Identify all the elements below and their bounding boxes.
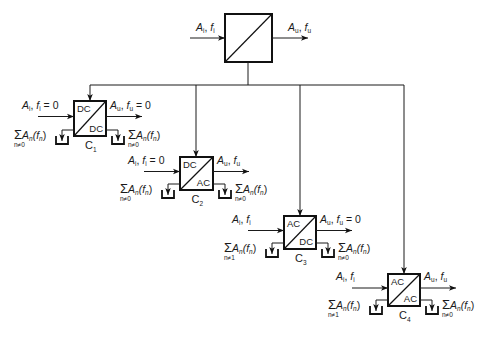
svg-text:ΣAn(fn): ΣAn(fn) <box>328 297 360 312</box>
signal-label: Ai, fi <box>231 213 251 226</box>
converter-c1: DCDCAi, fi = 0Au, fu = 0ΣAn(fn)n≠0ΣAn(fn… <box>14 85 160 153</box>
svg-text:ΣAn(fn): ΣAn(fn) <box>235 181 267 196</box>
main-converter: Ai, fi Au, fu <box>90 14 404 85</box>
signal-label: Ai, fi = 0 <box>21 99 59 112</box>
converter-id-label: C4 <box>399 309 411 323</box>
svg-text:n≠0: n≠0 <box>235 195 246 202</box>
box-bottom-label: DC <box>299 236 313 247</box>
signal-label: Au, fu = 0 <box>319 213 361 226</box>
left-harmonic-sum: ΣAn(fn)n≠1 <box>328 297 360 318</box>
signal-label: Au, fu = 0 <box>109 99 151 112</box>
main-input-label: Ai, fi <box>195 21 215 34</box>
signal-label: Au, fu <box>423 270 447 283</box>
right-harmonic-sum: ΣAn(fn)n≠0 <box>442 297 474 318</box>
left-harmonic-sum: ΣAn(fn)n≠0 <box>14 127 46 148</box>
svg-text:n≠1: n≠1 <box>328 311 339 318</box>
svg-text:ΣAn(fn): ΣAn(fn) <box>338 240 370 255</box>
svg-text:n≠0: n≠0 <box>14 141 25 148</box>
box-bottom-label: AC <box>197 177 210 188</box>
svg-text:n≠0: n≠0 <box>128 141 139 148</box>
converter-diagram: Ai, fi Au, fu DCDCAi, fi = 0Au, fu = 0ΣA… <box>0 0 492 337</box>
svg-text:ΣAn(fn): ΣAn(fn) <box>120 181 152 196</box>
box-top-label: DC <box>183 159 197 170</box>
main-output-label: Au, fu <box>287 21 311 34</box>
converter-id-label: C2 <box>192 193 204 207</box>
converter-id-label: C3 <box>295 252 307 266</box>
converter-group: DCDCAi, fi = 0Au, fu = 0ΣAn(fn)n≠0ΣAn(fn… <box>14 85 474 323</box>
converter-id-label: C1 <box>85 139 97 153</box>
left-harmonic-sum: ΣAn(fn)n≠0 <box>120 181 152 202</box>
signal-label: Au, fu <box>216 154 240 167</box>
box-top-label: AC <box>287 218 300 229</box>
right-harmonic-sum: ΣAn(fn)n≠0 <box>235 181 267 202</box>
svg-text:ΣAn(fn): ΣAn(fn) <box>442 297 474 312</box>
box-top-label: AC <box>391 276 404 287</box>
converter-c3: ACDCAi, fiAu, fu = 0ΣAn(fn)n≠1ΣAn(fn)n≠0… <box>224 85 370 266</box>
right-harmonic-sum: ΣAn(fn)n≠0 <box>338 240 370 261</box>
signal-label: Ai, fi = 0 <box>127 154 165 167</box>
svg-text:n≠0: n≠0 <box>120 195 131 202</box>
box-top-label: DC <box>77 103 91 114</box>
svg-text:n≠0: n≠0 <box>442 311 453 318</box>
svg-text:n≠0: n≠0 <box>338 254 349 261</box>
box-bottom-label: DC <box>89 123 103 134</box>
left-harmonic-sum: ΣAn(fn)n≠1 <box>224 240 256 261</box>
right-harmonic-sum: ΣAn(fn)n≠0 <box>128 127 160 148</box>
svg-text:n≠1: n≠1 <box>224 254 235 261</box>
signal-label: Ai, fi <box>335 270 355 283</box>
svg-text:ΣAn(fn): ΣAn(fn) <box>14 127 46 142</box>
box-bottom-label: AC <box>404 293 417 304</box>
svg-text:ΣAn(fn): ΣAn(fn) <box>224 240 256 255</box>
converter-c4: ACACAi, fiAu, fuΣAn(fn)n≠1ΣAn(fn)n≠0C4 <box>328 85 474 323</box>
svg-text:ΣAn(fn): ΣAn(fn) <box>128 127 160 142</box>
